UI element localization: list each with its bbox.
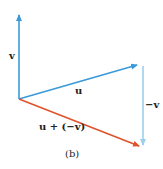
label-neg-v: −v	[145, 99, 160, 110]
figure-caption: (b)	[65, 148, 79, 159]
label-u: u	[75, 85, 82, 96]
label-u-plus-neg-v: u + (−v)	[39, 121, 85, 132]
label-v: v	[8, 50, 16, 61]
vector-subtraction-diagram: v u −v u + (−v) (b)	[0, 0, 163, 169]
